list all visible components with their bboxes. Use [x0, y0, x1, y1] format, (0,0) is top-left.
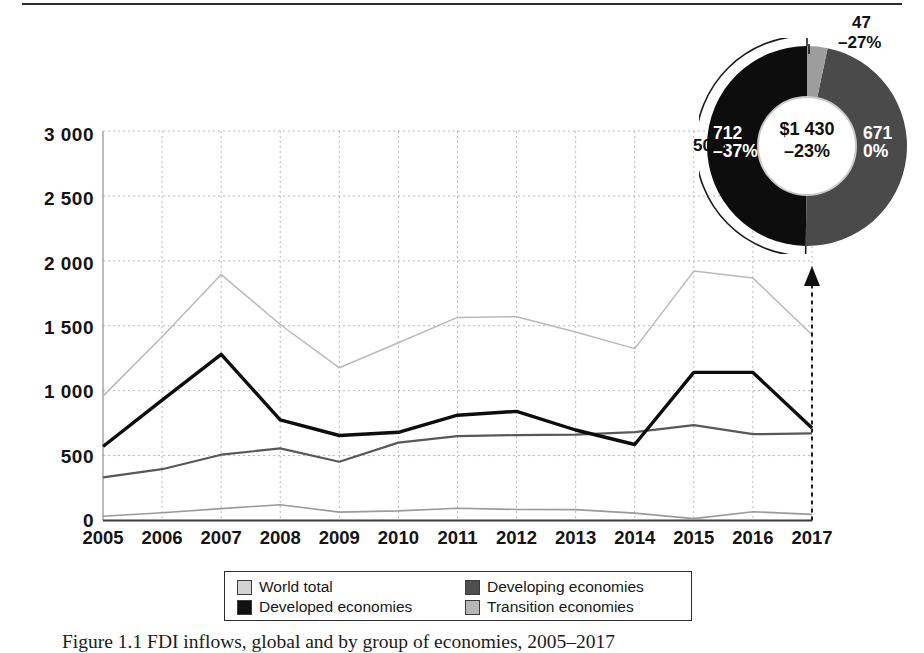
- y-tick-3000: 3 000: [14, 124, 94, 146]
- x-tick-2010: 2010: [368, 527, 428, 549]
- legend-label-world-total: World total: [259, 578, 333, 596]
- donut-center-value: $1 430: [757, 119, 857, 141]
- chart-legend: World total Developing economies Develop…: [224, 571, 692, 621]
- x-tick-2017: 2017: [782, 527, 842, 549]
- x-tick-2007: 2007: [191, 527, 251, 549]
- legend-swatch-world-total: [237, 580, 252, 595]
- legend-swatch-transition-economies: [465, 600, 480, 615]
- donut-value-developing: 671: [863, 124, 892, 142]
- donut-bracket-label-50: 50%: [693, 137, 727, 156]
- legend-label-developing-economies: Developing economies: [487, 578, 644, 596]
- legend-row-1: World total Developing economies: [237, 577, 681, 597]
- donut-label-developing: 671 0%: [863, 124, 892, 161]
- x-tick-2014: 2014: [605, 527, 665, 549]
- legend-item-transition-economies: Transition economies: [465, 598, 634, 616]
- legend-label-developed-economies: Developed economies: [259, 598, 412, 616]
- fdi-donut-chart: $1 430 –23% 712 –37% 671 0%: [699, 38, 915, 254]
- y-tick-1500: 1 500: [14, 317, 94, 339]
- legend-swatch-developed-economies: [237, 600, 252, 615]
- x-tick-2011: 2011: [427, 527, 487, 549]
- x-tick-2009: 2009: [309, 527, 369, 549]
- legend-swatch-developing-economies: [465, 580, 480, 595]
- x-tick-2008: 2008: [250, 527, 310, 549]
- legend-item-developed-economies: Developed economies: [237, 598, 465, 616]
- y-tick-2000: 2 000: [14, 253, 94, 275]
- x-tick-2005: 2005: [73, 527, 133, 549]
- donut-connector-arrowhead: [804, 266, 820, 286]
- x-tick-2012: 2012: [487, 527, 547, 549]
- donut-center-change: –23%: [757, 141, 857, 163]
- figure-caption: Figure 1.1 FDI inflows, global and by gr…: [62, 631, 862, 653]
- donut-change-developing: 0%: [863, 142, 892, 160]
- donut-label-transition-change: –27%: [838, 34, 881, 53]
- x-tick-2013: 2013: [546, 527, 606, 549]
- y-tick-2500: 2 500: [14, 188, 94, 210]
- legend-label-transition-economies: Transition economies: [487, 598, 634, 616]
- legend-row-2: Developed economies Transition economies: [237, 597, 681, 617]
- donut-label-transition-value: 47: [852, 14, 871, 33]
- legend-item-developing-economies: Developing economies: [465, 578, 644, 596]
- legend-item-world-total: World total: [237, 578, 465, 596]
- y-tick-1000: 1 000: [14, 381, 94, 403]
- donut-center-label: $1 430 –23%: [757, 119, 857, 162]
- x-tick-2015: 2015: [664, 527, 724, 549]
- x-tick-2006: 2006: [132, 527, 192, 549]
- x-tick-2016: 2016: [723, 527, 783, 549]
- y-tick-500: 500: [14, 446, 94, 468]
